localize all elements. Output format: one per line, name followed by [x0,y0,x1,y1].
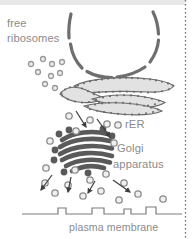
vesicle [115,122,121,128]
vesicle [43,165,49,171]
cell-diagram-canvas: free ribosomes rER Golgi apparatus plasm… [0,0,192,239]
golgi-vesicle [61,169,68,176]
ribosome-dot [49,74,54,79]
vesicle [121,180,127,186]
ribosome-dot [41,57,46,62]
golgi-vesicle [56,131,63,138]
top-band [0,0,185,5]
vesicle [52,190,58,196]
label-rer: rER [125,118,145,130]
ribosome-dot [29,62,34,67]
vesicle [72,167,78,173]
golgi-vesicle [66,127,73,134]
ribosome-dot [43,82,48,87]
vesicle [104,121,110,127]
label-golgi-line1: Golgi [117,142,144,154]
golgi-vesicle [85,170,92,177]
vesicle [87,177,93,183]
vesicle [135,191,141,197]
label-free-ribosomes-line2: ribosomes [7,32,60,44]
ribosome-dot [58,71,63,76]
vesicle [66,113,72,119]
vesicle [47,138,53,144]
golgi-vesicle [51,157,58,164]
vesicle [160,196,166,202]
vesicle [98,188,104,194]
vesicle [103,171,109,177]
ribosome-dot [50,62,55,67]
label-golgi-line2: apparatus [113,158,164,170]
ribosome-dot [36,70,41,75]
vesicle [116,197,122,203]
ribosome-dot [53,86,58,91]
golgi-vesicle [52,147,59,154]
vesicle [87,117,93,123]
vesicle [80,193,86,199]
label-plasma-membrane: plasma membrane [69,221,158,233]
ribosome-dot [60,60,65,65]
vesicle [73,128,79,134]
label-free-ribosomes-line1: free [7,17,27,29]
